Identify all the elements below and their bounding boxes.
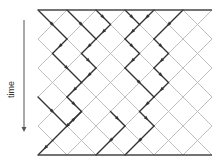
time-axis-label: time: [6, 81, 16, 98]
grid-line: [212, 10, 224, 155]
grid-line: [0, 10, 125, 155]
grid-line: [212, 10, 224, 155]
boundaries: [38, 10, 212, 155]
grid-line: [154, 10, 224, 155]
time-arrow-head-icon: [22, 127, 27, 132]
grid-line: [183, 10, 224, 155]
time-arrow-icon: [22, 20, 27, 132]
grid-line: [0, 10, 125, 155]
grid-line: [154, 10, 224, 155]
spacetime-diagram: [0, 0, 224, 167]
grid-line: [183, 10, 224, 155]
diamond-lattice: [0, 10, 224, 155]
